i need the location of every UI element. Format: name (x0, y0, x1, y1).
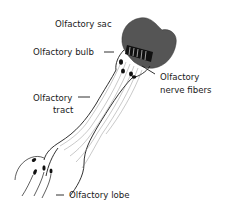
label-olfactory-tract-1: Olfactory (33, 93, 72, 103)
leader-lines (56, 52, 155, 195)
bulb-tract-outline (44, 50, 150, 196)
label-olfactory-nerve-fibers-2: nerve fibers (160, 85, 212, 95)
label-olfactory-tract-2: tract (53, 105, 74, 115)
bulb-neurons (119, 59, 136, 79)
lobe-neurons (31, 157, 52, 175)
label-olfactory-nerve-fibers-1: Olfactory (160, 72, 199, 82)
label-olfactory-lobe: Olfactory lobe (69, 190, 130, 200)
olfactory-diagram: Olfactory sac Olfactory bulb Olfactory n… (0, 0, 229, 222)
label-olfactory-sac: Olfactory sac (55, 19, 112, 29)
lobe-fibers (15, 156, 51, 198)
label-olfactory-bulb: Olfactory bulb (33, 47, 94, 57)
